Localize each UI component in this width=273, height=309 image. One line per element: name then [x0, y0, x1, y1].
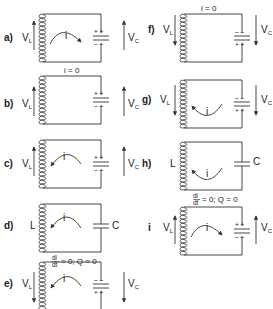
cap-top-minus: – –: [94, 276, 103, 283]
cap-bottom-minus: – –: [94, 102, 103, 109]
vc-label: VC: [261, 24, 273, 36]
cap-bottom-plus: + +: [235, 41, 245, 48]
condition-label: di dt = 0; Q = 0: [52, 254, 97, 268]
vc-label: VC: [128, 32, 140, 44]
cap-bottom-minus: – –: [235, 233, 244, 240]
panel-label-g: g): [142, 94, 151, 105]
panel-label-a: a): [4, 32, 13, 43]
svg-text:= 0; Q = 0: = 0; Q = 0: [61, 257, 97, 266]
inductor-label: L: [170, 158, 176, 169]
current-label: i: [63, 273, 65, 284]
current-label: i: [206, 222, 208, 233]
cap-top-minus: – –: [235, 28, 244, 35]
cap-top-plus: + +: [94, 90, 104, 97]
inductor-label: L: [30, 220, 36, 231]
panel-a: a) VL i + + – – VC: [4, 14, 140, 62]
condition-label: di dt = 0; Q = 0: [193, 192, 238, 206]
vl-label: VL: [22, 278, 33, 290]
cap-bottom-plus: + +: [235, 107, 245, 114]
vl-label: VL: [22, 98, 33, 110]
svg-text:di: di: [52, 254, 57, 261]
vc-label: VC: [261, 94, 273, 106]
panel-i: i VL i + + – – VC: [148, 207, 273, 255]
panel-label-f: f): [148, 24, 155, 35]
current-label: i: [206, 106, 208, 117]
current-arrow-counterclockwise-icon: [51, 217, 81, 228]
vl-label: VL: [163, 24, 174, 36]
panel-e: e) VL i – – + + VC: [4, 262, 140, 309]
vl-label: VL: [163, 222, 174, 234]
cap-bottom-minus: – –: [94, 166, 103, 173]
cap-top-plus: + +: [94, 154, 104, 161]
current-label: i: [65, 30, 67, 41]
panel-label-h: h): [142, 158, 151, 169]
capacitor-label: C: [253, 156, 260, 167]
panel-label-i: i: [148, 222, 151, 233]
vl-label: VL: [22, 32, 33, 44]
current-arrow-counterclockwise-icon: [51, 154, 81, 166]
cap-top-plus: + +: [94, 28, 104, 35]
vl-label: VL: [22, 158, 33, 170]
panel-g: g) VL i – – + + VC: [142, 80, 273, 128]
vc-label: VC: [128, 98, 140, 110]
panel-d: d) L i C di dt = 0; Q = 0: [4, 204, 119, 268]
cap-bottom-minus: – –: [94, 40, 103, 47]
vl-label: VL: [160, 94, 171, 106]
current-label: i: [206, 168, 208, 179]
vc-label: VC: [128, 278, 140, 290]
panel-f: i = 0 f) VL – – + + VC: [148, 4, 273, 62]
panel-h: h) L i C di dt = 0; Q = 0: [142, 142, 260, 206]
svg-text:di: di: [193, 192, 198, 199]
panel-label-c: c): [4, 158, 13, 169]
vc-label: VC: [128, 158, 140, 170]
vc-label: VC: [261, 222, 273, 234]
panel-label-d: d): [4, 220, 13, 231]
current-arrow-counterclockwise-icon: [51, 276, 81, 288]
svg-text:= 0; Q = 0: = 0; Q = 0: [202, 195, 238, 204]
current-label: i: [63, 151, 65, 162]
panel-c: c) VL i + + – – VC: [4, 140, 140, 188]
i-zero-label: i = 0: [201, 4, 217, 13]
cap-top-minus: – –: [235, 94, 244, 101]
capacitor-label: C: [112, 220, 119, 231]
i-zero-label: i = 0: [64, 66, 80, 75]
lc-oscillation-diagram: a) VL i + + – – VC i = 0 b) VL + + – – V…: [0, 0, 273, 309]
panel-b: i = 0 b) VL + + – – VC: [4, 66, 140, 124]
panel-label-b: b): [4, 98, 13, 109]
cap-top-plus: + +: [235, 221, 245, 228]
current-label: i: [63, 212, 65, 223]
svg-text:dt: dt: [193, 199, 199, 206]
panel-label-e: e): [4, 278, 13, 289]
cap-bottom-plus: + +: [94, 289, 104, 296]
